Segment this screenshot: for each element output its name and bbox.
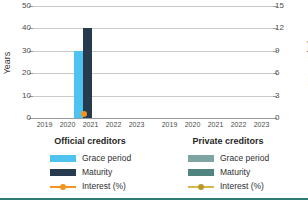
swatch-official-maturity-icon <box>50 169 76 176</box>
legend-label-official-grace: Grace period <box>82 153 131 163</box>
line-marker-official-interest-icon <box>50 183 76 190</box>
xtick-official-2023: 2023 <box>125 121 148 128</box>
ytick-label-right-0: 0 <box>275 114 299 122</box>
legend-label-official-maturity: Maturity <box>82 167 112 177</box>
xtick-official-2022: 2022 <box>102 121 125 128</box>
legend-item-private-maturity[interactable]: Maturity <box>160 165 296 179</box>
bar-official-grace-2021 <box>74 51 83 118</box>
legend-official: Official creditors Grace period Maturity… <box>22 136 158 193</box>
legend-label-private-grace: Grace period <box>220 153 269 163</box>
legend-label-official-interest: Interest (%) <box>82 181 126 191</box>
line-marker-private-interest-icon <box>188 183 214 190</box>
y-axis-label-right: Interest (%) <box>306 39 308 86</box>
legend-item-official-interest[interactable]: Interest (%) <box>22 179 158 193</box>
gridline-20 <box>33 73 273 74</box>
ytick-label-left-50: 50 <box>7 2 31 10</box>
xtick-official-2021: 2021 <box>79 121 102 128</box>
ytick-label-right-6: 6 <box>275 69 299 77</box>
bar-official-maturity-2021 <box>83 28 92 118</box>
ytick-label-right-12: 12 <box>275 24 299 32</box>
legend-item-official-grace[interactable]: Grace period <box>22 151 158 165</box>
legend-title-private: Private creditors <box>160 136 296 146</box>
ytick-label-right-15: 15 <box>275 2 299 10</box>
gridline-50 <box>33 6 273 7</box>
legend-item-private-grace[interactable]: Grace period <box>160 151 296 165</box>
swatch-official-grace-icon <box>50 155 76 162</box>
gridline-40 <box>33 28 273 29</box>
legend-private: Private creditors Grace period Maturity … <box>160 136 296 193</box>
plot-area: 50 40 30 20 10 0 15 12 9 6 3 0 Years Int… <box>33 6 273 119</box>
gridline-10 <box>33 96 273 97</box>
ytick-label-right-3: 3 <box>275 92 299 100</box>
xtick-private-2020: 2020 <box>181 121 204 128</box>
ytick-label-right-9: 9 <box>275 47 299 55</box>
legend-item-official-maturity[interactable]: Maturity <box>22 165 158 179</box>
xtick-official-2020: 2020 <box>56 121 79 128</box>
legend-title-official: Official creditors <box>22 136 158 146</box>
legend-label-private-maturity: Maturity <box>220 167 250 177</box>
axis-baseline <box>33 118 273 119</box>
xtick-private-2019: 2019 <box>158 121 181 128</box>
xtick-private-2021: 2021 <box>204 121 227 128</box>
gridline-30 <box>33 51 273 52</box>
chart-container: 50 40 30 20 10 0 15 12 9 6 3 0 Years Int… <box>0 0 308 203</box>
x-axis-official: 2019 2020 2021 2022 2023 <box>33 121 148 128</box>
ytick-label-left-10: 10 <box>7 92 31 100</box>
xtick-private-2023: 2023 <box>250 121 273 128</box>
ytick-label-left-0: 0 <box>7 114 31 122</box>
x-axis-private: 2019 2020 2021 2022 2023 <box>158 121 273 128</box>
legend-item-private-interest[interactable]: Interest (%) <box>160 179 296 193</box>
marker-official-interest-2021 <box>81 111 87 117</box>
xtick-official-2019: 2019 <box>33 121 56 128</box>
xtick-private-2022: 2022 <box>227 121 250 128</box>
swatch-private-grace-icon <box>188 155 214 162</box>
legend-label-private-interest: Interest (%) <box>220 181 264 191</box>
swatch-private-maturity-icon <box>188 169 214 176</box>
bottom-spacer <box>0 200 308 203</box>
ytick-label-left-40: 40 <box>7 24 31 32</box>
y-axis-label-left: Years <box>2 51 12 74</box>
